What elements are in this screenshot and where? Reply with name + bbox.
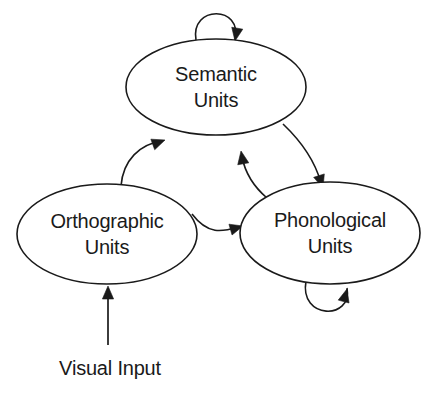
orthographic-to-semantic-arrowhead [151, 139, 165, 150]
semantic-self-loop-path [196, 14, 236, 40]
label-layer: Visual Input [59, 357, 161, 379]
edge-semantic-self [196, 14, 243, 41]
semantic-units-label-line1: Semantic [175, 63, 257, 85]
phonological-units-ellipse [240, 182, 420, 284]
diagram-root: Semantic Units Orthographic Units Phonol… [0, 0, 431, 394]
semantic-self-loop-arrowhead [232, 27, 243, 41]
node-phonological-units[interactable]: Phonological Units [240, 182, 420, 284]
visual-input-label: Visual Input [59, 357, 161, 379]
visual-input-to-orthographic-arrowhead [102, 286, 113, 299]
orthographic-units-ellipse [17, 184, 197, 284]
edge-semantic-to-phonological [283, 124, 324, 188]
orthographic-units-label-line2: Units [85, 236, 130, 258]
phonological-to-semantic-arrowhead [238, 151, 249, 165]
phonological-units-label-line2: Units [308, 235, 353, 257]
edge-visual-input-to-orthographic [102, 286, 113, 345]
orthographic-units-label-line1: Orthographic [50, 210, 163, 232]
semantic-units-label-line2: Units [194, 89, 239, 111]
edge-orthographic-to-phonological [192, 214, 243, 235]
node-layer: Semantic Units Orthographic Units Phonol… [17, 39, 420, 284]
edge-phonological-self [305, 281, 349, 311]
semantic-units-ellipse [126, 39, 306, 135]
edge-orthographic-to-semantic [121, 139, 165, 186]
node-orthographic-units[interactable]: Orthographic Units [17, 184, 197, 284]
phonological-self-loop-arrowhead [338, 289, 349, 303]
semantic-to-phonological-path [283, 124, 321, 183]
network-diagram-canvas: Semantic Units Orthographic Units Phonol… [0, 0, 431, 394]
edge-phonological-to-semantic [238, 151, 267, 198]
node-semantic-units[interactable]: Semantic Units [126, 39, 306, 135]
phonological-units-label-line1: Phonological [274, 209, 386, 231]
